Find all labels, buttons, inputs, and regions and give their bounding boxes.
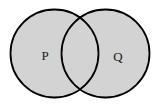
venn-diagram: P Q xyxy=(0,0,159,104)
set-p-label: P xyxy=(41,48,48,63)
venn-diagram-svg: P Q xyxy=(0,0,159,104)
set-q-label: Q xyxy=(113,49,123,64)
